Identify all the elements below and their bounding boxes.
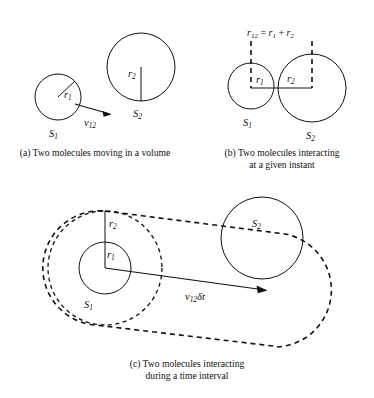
panel-c-label-s2: S2 (252, 218, 261, 231)
panel-c-label-v12dt: v12δt (185, 291, 206, 304)
panel-c-label-r1: r1 (107, 249, 115, 262)
panel-a-velocity-arrow-head (103, 111, 112, 117)
panel-a-label-s2: S2 (133, 108, 142, 121)
panel-a-label-r2: r2 (128, 68, 136, 81)
panel-c-label-r2: r2 (109, 218, 117, 231)
panel-c-label-s1: S1 (84, 299, 93, 312)
panel-b-equation: r12 = r1 + r2 (247, 27, 295, 40)
panel-c-graphics: r2 r1 S1 S2 v12δt (43, 197, 332, 347)
figure-root: r1 S1 r2 S2 v12 (0, 0, 374, 398)
panel-c-circle-s2 (221, 197, 303, 279)
panel-a-caption: (a) Two molecules moving in a volume (2, 147, 188, 159)
panel-b-graphics: r12 = r1 + r2 r1 r2 S1 S2 (228, 27, 346, 143)
panel-a-label-r1: r1 (64, 89, 72, 102)
panel-b-label-s1: S1 (243, 117, 252, 130)
panel-b-caption: (b) Two molecules interacting at a given… (192, 147, 372, 172)
panel-c-displacement-arrow-head (257, 286, 268, 294)
panel-b-label-r1: r1 (256, 74, 264, 87)
panel-b-label-r2: r2 (287, 73, 295, 86)
panel-a-label-v12: v12 (84, 117, 96, 130)
panel-a-label-s1: S1 (49, 128, 58, 141)
panel-b-label-s2: S2 (306, 130, 315, 143)
panel-c-caption: (c) Two molecules interacting during a t… (87, 358, 287, 383)
panel-a-graphics: r1 S1 r2 S2 v12 (35, 33, 175, 141)
figure-canvas: r1 S1 r2 S2 v12 (0, 0, 374, 398)
